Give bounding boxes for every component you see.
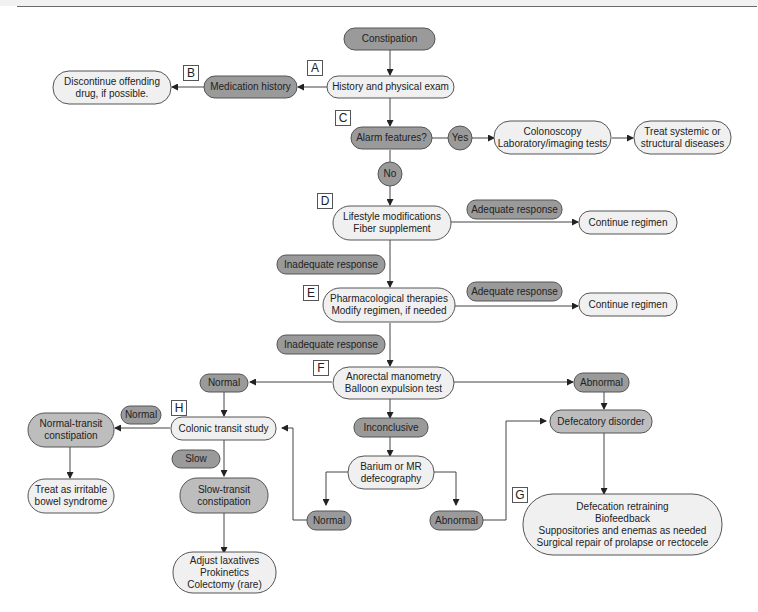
node-yes: Yes <box>448 126 472 150</box>
node-colonic-transit-study: Colonic transit study <box>171 417 276 440</box>
node-alarm-features: Alarm features? <box>351 127 432 149</box>
node-treat-systemic: Treat systemic or structural diseases <box>634 121 731 154</box>
node-discontinue-drug: Discontinue offending drug, if possible. <box>53 71 171 104</box>
node-normal-transit-result: Normal <box>121 406 161 424</box>
node-normal-defecography: Normal <box>307 511 351 530</box>
step-tag-f: F <box>313 360 329 376</box>
node-barium-defecography: Barium or MR defecography <box>348 456 434 489</box>
step-tag-h: H <box>171 400 187 416</box>
node-treat-ibs: Treat as irritable bowel syndrome <box>28 479 114 513</box>
node-slow-result: Slow <box>172 450 220 468</box>
step-tag-a: A <box>307 60 323 76</box>
node-inadequate-response-2: Inadequate response <box>277 335 385 354</box>
node-continue-regimen-1: Continue regimen <box>579 211 677 234</box>
step-tag-b: B <box>183 65 199 81</box>
node-defecation-retraining: Defecation retraining Biofeedback Suppos… <box>523 494 722 555</box>
node-defecatory-disorder: Defecatory disorder <box>550 410 652 433</box>
node-pharmacological-therapies: Pharmacological therapies Modify regimen… <box>323 288 455 322</box>
node-normal-transit-constipation: Normal-transit constipation <box>28 413 114 447</box>
node-normal-anorectal: Normal <box>200 374 248 392</box>
node-constipation: Constipation <box>344 28 435 50</box>
node-continue-regimen-2: Continue regimen <box>579 293 677 316</box>
node-abnormal-anorectal: Abnormal <box>574 373 629 392</box>
node-adequate-response-1: Adequate response <box>467 200 562 219</box>
node-adequate-response-2: Adequate response <box>467 282 562 301</box>
step-tag-d: D <box>317 193 333 209</box>
node-colonoscopy-tests: Colonoscopy Laboratory/imaging tests <box>494 121 611 154</box>
node-lifestyle-modifications: Lifestyle modifications Fiber supplement <box>333 206 451 240</box>
step-tag-g: G <box>512 487 528 503</box>
step-tag-c: C <box>335 110 351 126</box>
node-abnormal-defecography: Abnormal <box>430 511 483 530</box>
node-slow-transit-constipation: Slow-transit constipation <box>180 478 268 513</box>
step-tag-e: E <box>303 285 319 301</box>
node-inconclusive: Inconclusive <box>354 418 428 437</box>
node-no: No <box>378 162 402 186</box>
node-anorectal-manometry: Anorectal manometry Balloon expulsion te… <box>333 367 454 399</box>
node-adjust-laxatives: Adjust laxatives Prokinetics Colectomy (… <box>173 552 276 593</box>
node-medication-history: Medication history <box>204 76 297 98</box>
node-inadequate-response-1: Inadequate response <box>277 255 385 274</box>
node-history-physical-exam: History and physical exam <box>327 76 454 98</box>
